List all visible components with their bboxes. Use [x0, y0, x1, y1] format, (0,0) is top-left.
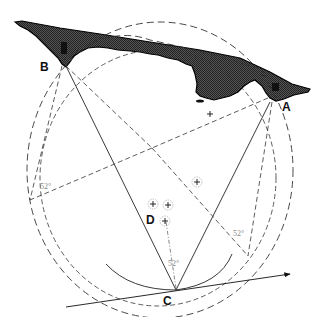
position-marker [160, 216, 170, 226]
point-label-b: B [40, 60, 49, 74]
dashed-mid-to-right [152, 148, 248, 256]
landmark-b-structure [61, 42, 67, 54]
small-cross [207, 111, 213, 117]
coastline-landmass [15, 21, 310, 101]
dashed-a-down [248, 102, 272, 256]
line-a-c [176, 102, 270, 290]
angle-label-bottom: 52° [168, 259, 179, 268]
point-label-d: D [146, 213, 155, 227]
dashdot-d-to-c [166, 222, 176, 288]
point-label-a: A [282, 100, 291, 114]
dashed-mid-to-left [30, 148, 152, 200]
dashed-b-to-left [30, 66, 62, 200]
tangent-arrow [66, 274, 290, 307]
position-marker [148, 199, 158, 209]
position-marker [163, 200, 173, 210]
islet [196, 99, 204, 102]
landmark-a-structure [272, 83, 279, 91]
point-label-c: C [163, 294, 172, 308]
position-marker [192, 177, 202, 187]
angle-label-left: 52° [40, 182, 51, 191]
dashed-b-to-mid [66, 66, 152, 148]
diagram-canvas: B A C D 52° 52° 52° [0, 0, 325, 317]
angle-label-right: 52° [233, 229, 244, 238]
